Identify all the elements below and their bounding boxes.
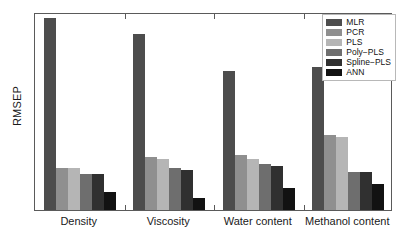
axis-tick-mark	[304, 14, 305, 19]
bar	[80, 174, 92, 210]
legend-label: PLS	[346, 38, 362, 47]
legend-item: MLR	[326, 18, 391, 27]
axis-tick-mark	[125, 14, 126, 19]
x-axis-tick-label: Viscosity	[147, 215, 190, 227]
axis-tick-mark	[125, 205, 126, 210]
x-axis-tick-labels: DensityViscosityWater contentMethanol co…	[34, 213, 392, 235]
bar	[133, 34, 145, 210]
bar	[348, 172, 360, 210]
bar	[92, 174, 104, 210]
legend-label: Poly−PLS	[346, 48, 384, 57]
axis-tick-mark	[304, 205, 305, 210]
legend-item: ANN	[326, 68, 391, 77]
x-axis-tick-label: Density	[60, 215, 97, 227]
x-axis-tick-label: Water content	[224, 215, 292, 227]
legend-color-swatch	[326, 49, 342, 56]
bar	[336, 137, 348, 210]
bar-chart-figure: RMSEP DensityViscosityWater contentMetha…	[0, 0, 402, 242]
legend-item: Spline−PLS	[326, 58, 391, 67]
y-axis-label: RMSEP	[11, 86, 23, 126]
legend-color-swatch	[326, 39, 342, 46]
bar	[181, 170, 193, 210]
legend-color-swatch	[326, 29, 342, 36]
bar	[324, 135, 336, 210]
legend-label: MLR	[346, 18, 364, 27]
bar	[271, 166, 283, 210]
bar	[145, 157, 157, 210]
bar	[235, 155, 247, 210]
bar	[104, 192, 116, 210]
axis-tick-mark	[214, 14, 215, 19]
legend-color-swatch	[326, 59, 342, 66]
bar	[157, 159, 169, 210]
bar	[312, 67, 324, 210]
legend-item: PLS	[326, 38, 391, 47]
legend-label: PCR	[346, 28, 364, 37]
legend-color-swatch	[326, 69, 342, 76]
legend-label: ANN	[346, 68, 364, 77]
bar	[193, 198, 205, 210]
legend-label: Spline−PLS	[346, 58, 391, 67]
legend-item: Poly−PLS	[326, 48, 391, 57]
legend-item: PCR	[326, 28, 391, 37]
bar	[360, 172, 372, 210]
bar	[283, 188, 295, 210]
bar	[44, 18, 56, 210]
bar	[223, 71, 235, 210]
bar	[68, 168, 80, 210]
x-axis-tick-label: Methanol content	[305, 215, 389, 227]
axis-tick-mark	[214, 205, 215, 210]
legend-color-swatch	[326, 19, 342, 26]
bar	[372, 184, 384, 210]
y-axis-label-container: RMSEP	[0, 0, 34, 212]
bar	[169, 168, 181, 210]
bar	[259, 164, 271, 210]
bar	[56, 168, 68, 210]
legend: MLRPCRPLSPoly−PLSSpline−PLSANN	[322, 14, 396, 81]
bar	[247, 159, 259, 210]
